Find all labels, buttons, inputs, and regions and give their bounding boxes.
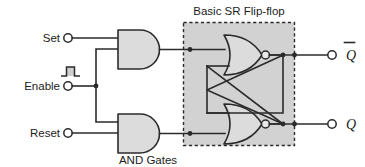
circuit-canvas: Basic SR Flip-flop Set Enable Reset AND … <box>0 0 365 167</box>
junction-qbar-tap <box>281 53 286 58</box>
terminal-circle-icon-enable[interactable] <box>64 82 72 90</box>
sr-flip-flop-diagram: Basic SR Flip-flop Set Enable Reset AND … <box>0 0 365 167</box>
input-label-enable: Enable <box>24 80 60 92</box>
output-label-q: Q <box>346 117 356 132</box>
terminal-circle-icon-set[interactable] <box>64 34 72 42</box>
junction-q-tap <box>281 122 286 127</box>
input-label-reset: Reset <box>30 127 61 139</box>
junction-q-boundary <box>292 122 297 127</box>
terminal-circle-icon-reset[interactable] <box>64 129 72 137</box>
wire-enable-to-and-reset <box>96 86 118 122</box>
output-label-qbar-group: Q <box>345 43 357 64</box>
input-label-set: Set <box>43 32 61 44</box>
terminal-circle-icon-qbar[interactable] <box>328 51 336 59</box>
output-label-qbar: Q <box>346 48 356 63</box>
junction-nor-bottom-input <box>188 131 193 136</box>
and-gates-label: AND Gates <box>119 154 177 166</box>
wire-enable-to-and-set <box>96 49 118 86</box>
junction-qbar-boundary <box>292 53 297 58</box>
pulse-waveform-icon <box>61 67 80 76</box>
flip-flop-title: Basic SR Flip-flop <box>193 5 284 17</box>
terminal-circle-icon-q[interactable] <box>328 120 336 128</box>
and-gate-reset[interactable] <box>118 114 160 153</box>
and-gate-set[interactable] <box>118 30 160 69</box>
junction-nor-top-input <box>188 47 193 52</box>
junction-enable-bus <box>94 84 99 89</box>
